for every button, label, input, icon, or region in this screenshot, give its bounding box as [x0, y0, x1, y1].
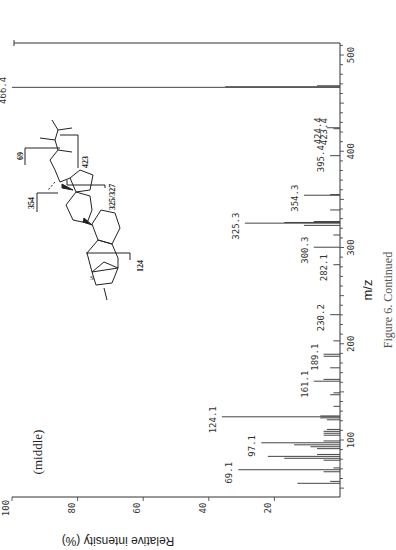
dashed-methyl	[48, 182, 55, 190]
peaks	[12, 86, 340, 484]
fragment-labels: 69 423 354 325/327 124 S	[16, 152, 145, 282]
intensity-tick-label: 100	[1, 500, 11, 516]
frag-label-354: 354	[27, 197, 36, 209]
intensity-tick-label: 80	[67, 503, 77, 514]
side-chain-branch	[40, 138, 55, 140]
intensity-axis-title: Relative intensity (%)	[62, 534, 175, 548]
ring-b	[92, 210, 120, 244]
peak-label: 189.1	[310, 344, 320, 371]
peak-label: 300.3	[300, 237, 310, 264]
peak-label: 466.4	[0, 77, 8, 104]
frag-label-124: 124	[136, 260, 145, 272]
mz-tick-label: 200	[346, 336, 356, 352]
peak-label: 230.2	[316, 304, 326, 331]
side-chain-branch	[58, 150, 72, 152]
side-chain-branch	[58, 128, 72, 130]
frag-bracket-69	[25, 148, 60, 165]
mz-axis-title: m/z	[360, 280, 375, 301]
frag-label-423: 423	[81, 156, 90, 168]
peak-label: 424.4	[313, 117, 323, 144]
peak-label: 354.3	[290, 185, 300, 212]
ring-a	[87, 240, 118, 272]
peak-label: 395.4	[316, 145, 326, 172]
methyl-bond	[104, 288, 107, 300]
mz-tick-label: 500	[346, 47, 356, 63]
figure-caption: Figure 6. Continued	[381, 252, 395, 348]
peak-label: 282.1	[319, 254, 329, 281]
peak-labels: 69.197.1124.1161.1189.1230.2282.1300.332…	[0, 77, 329, 484]
wedge-methyl	[83, 218, 92, 225]
intensity-tick-label: 60	[132, 503, 142, 514]
frag-label-69: 69	[16, 152, 25, 160]
ring-d	[70, 170, 93, 192]
thiophene-ring	[92, 262, 118, 285]
peak-label: 124.1	[208, 406, 218, 433]
mz-tick-label: 100	[346, 432, 356, 448]
peak-label: 325.3	[231, 213, 241, 240]
frag-label-325-327: 325/327	[108, 184, 117, 210]
mz-tick-label: 300	[346, 239, 356, 255]
intensity-tick-label: 20	[263, 503, 273, 514]
frag-bracket-354	[37, 193, 58, 212]
panel-label: (middle)	[30, 430, 45, 475]
peak-label: 161.1	[300, 371, 310, 398]
intensity-ticks: 20406080100	[1, 497, 274, 516]
sulfur-atom: S	[90, 274, 94, 282]
mass-spectrum-chart: 100200300400500 20406080100 69.197.1124.…	[0, 0, 396, 550]
peak-label: 97.1	[247, 435, 257, 457]
frag-bracket-124	[86, 253, 130, 260]
mz-tick-label: 400	[346, 143, 356, 159]
intensity-tick-label: 40	[198, 503, 208, 514]
peak-label: 69.1	[224, 462, 234, 484]
ring-c	[66, 192, 92, 223]
mz-ticks: 100200300400500	[340, 45, 356, 488]
